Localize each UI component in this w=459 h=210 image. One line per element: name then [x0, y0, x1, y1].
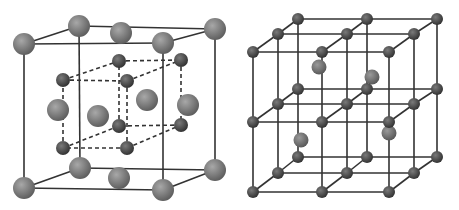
lattice-node-atom — [383, 116, 395, 128]
interstitial-atom — [312, 60, 327, 75]
lattice-node-atom — [431, 13, 443, 25]
inner-cube-dashed-edge — [119, 125, 181, 126]
crystal-lattice-figure — [0, 0, 459, 210]
lattice-node-atom — [316, 186, 328, 198]
outer-cube-edge — [79, 26, 215, 29]
interstitial-atom — [294, 133, 309, 148]
small-atom — [112, 54, 126, 68]
lattice-node-atom — [341, 28, 353, 40]
interstitial-atom — [365, 70, 380, 85]
inner-cube-dashed-edge — [63, 126, 119, 148]
lattice-node-atom — [316, 46, 328, 58]
lattice-diagram-canvas — [0, 0, 459, 210]
large-atom — [69, 157, 91, 179]
lattice-node-atom — [383, 46, 395, 58]
large-atom — [87, 105, 109, 127]
large-atom — [152, 32, 174, 54]
large-atom — [152, 179, 174, 201]
large-atom — [68, 15, 90, 37]
lattice-node-atom — [292, 151, 304, 163]
large-atom — [136, 89, 158, 111]
lattice-node-atom — [341, 98, 353, 110]
outer-cube-edge — [24, 188, 163, 190]
inner-cube-dashed-edge — [127, 125, 181, 148]
lattice-node-atom — [247, 116, 259, 128]
small-atom — [56, 73, 70, 87]
small-atom — [120, 74, 134, 88]
lattice-node-atom — [292, 83, 304, 95]
small-atom — [56, 141, 70, 155]
outer-cube-edge — [79, 26, 80, 168]
lattice-node-atom — [272, 167, 284, 179]
large-atom — [110, 22, 132, 44]
lattice-node-atom — [408, 28, 420, 40]
inner-cube-dashed-edge — [63, 61, 119, 80]
lattice-node-atom — [361, 83, 373, 95]
large-atom — [204, 18, 226, 40]
lattice-node-atom — [408, 167, 420, 179]
lattice-node-atom — [272, 98, 284, 110]
inner-cube-dashed-edge — [63, 80, 127, 81]
lattice-node-atom — [361, 151, 373, 163]
outer-cube-edge — [24, 43, 163, 44]
large-atom — [177, 94, 199, 116]
lattice-node-atom — [431, 151, 443, 163]
large-atom — [13, 177, 35, 199]
large-atom — [204, 159, 226, 181]
small-atom — [112, 119, 126, 133]
lattice-node-atom — [272, 28, 284, 40]
left-fcc-lattice — [13, 15, 226, 201]
lattice-node-atom — [292, 13, 304, 25]
large-atom — [13, 33, 35, 55]
small-atom — [174, 53, 188, 67]
lattice-node-atom — [341, 167, 353, 179]
lattice-node-atom — [316, 116, 328, 128]
large-atom — [47, 99, 69, 121]
lattice-node-atom — [408, 98, 420, 110]
inner-cube-dashed-edge — [127, 60, 181, 81]
right-cubic-grid-lattice — [247, 13, 443, 198]
small-atom — [120, 141, 134, 155]
lattice-node-atom — [431, 83, 443, 95]
small-atom — [174, 118, 188, 132]
lattice-node-atom — [247, 46, 259, 58]
outer-cube-edge — [80, 168, 215, 170]
lattice-node-atom — [247, 186, 259, 198]
lattice-node-atom — [383, 186, 395, 198]
inner-cube-dashed-edge — [119, 60, 181, 61]
large-atom — [108, 167, 130, 189]
lattice-node-atom — [361, 13, 373, 25]
